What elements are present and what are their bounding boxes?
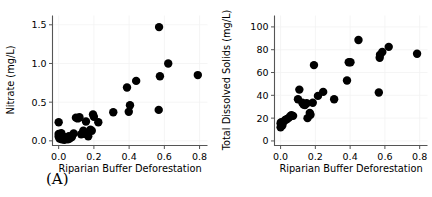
ytick-label: 100	[250, 21, 268, 32]
data-point	[385, 43, 393, 51]
data-point	[123, 83, 131, 91]
ytick-label: 1.5	[31, 19, 46, 30]
data-point	[155, 106, 163, 114]
xtick-label: 0.6	[157, 151, 172, 162]
figure-two-panel-scatter: 0.00.20.40.60.80.00.51.01.5 Riparian Buf…	[0, 0, 432, 197]
ytick-label: 60	[256, 67, 268, 78]
data-point	[375, 88, 383, 96]
ytick-label: 0.0	[31, 135, 46, 146]
xtick-label: 0.2	[86, 151, 101, 162]
panel-b-ticks	[271, 27, 420, 149]
ytick-label: 80	[256, 44, 268, 55]
panel-b-ticklabels: 0.00.20.40.60.8020406080100	[250, 21, 427, 161]
panel-a-plot: 0.00.20.40.60.80.00.51.01.5 Riparian Buf…	[0, 0, 216, 197]
panel-b-data-points	[276, 36, 421, 132]
data-point	[413, 50, 421, 58]
data-point	[156, 72, 164, 80]
panel-a-data-points	[54, 23, 202, 144]
panel-b-plot: 0.00.20.40.60.8020406080100 Riparian Buf…	[216, 0, 432, 197]
data-point	[306, 111, 314, 119]
data-point	[346, 58, 354, 66]
xtick-label: 0.0	[273, 151, 288, 162]
data-point	[310, 61, 318, 69]
xtick-label: 0.4	[343, 151, 358, 162]
data-point	[88, 127, 96, 135]
xtick-label: 0.8	[192, 151, 207, 162]
panel-b-yaxis-label: Total Dissolved Solids (mg/L)	[221, 10, 232, 152]
xtick-label: 0.6	[377, 151, 392, 162]
panel-a-grid	[53, 16, 208, 146]
data-point	[343, 76, 351, 84]
xtick-label: 0.8	[412, 151, 427, 162]
data-point	[164, 59, 172, 67]
panel-a-xaxis-label: Riparian Buffer Deforestation	[58, 163, 201, 174]
data-point	[69, 129, 77, 137]
xtick-label: 0.2	[308, 151, 323, 162]
data-point	[194, 71, 202, 79]
data-point	[155, 23, 163, 31]
ytick-label: 0.5	[31, 97, 46, 108]
ytick-label: 20	[256, 113, 268, 124]
data-point	[295, 85, 303, 93]
data-point	[109, 108, 117, 116]
data-point	[309, 99, 317, 107]
panel-a-yaxis-label: Nitrate (mg/L)	[5, 45, 16, 114]
xtick-label: 0.4	[122, 151, 137, 162]
data-point	[126, 101, 134, 109]
panel-b-xaxis-label: Riparian Buffer Deforestation	[279, 163, 422, 174]
xtick-label: 0.0	[51, 151, 66, 162]
panel-a: 0.00.20.40.60.80.00.51.01.5 Riparian Buf…	[0, 0, 216, 197]
ytick-label: 40	[256, 90, 268, 101]
ytick-label: 1.0	[31, 58, 46, 69]
data-point	[94, 118, 102, 126]
panel-a-tag: (A)	[46, 170, 69, 188]
panel-b: 0.00.20.40.60.8020406080100 Riparian Buf…	[216, 0, 432, 197]
data-point	[54, 118, 62, 126]
ytick-label: 0	[262, 135, 268, 146]
data-point	[132, 77, 140, 85]
data-point	[354, 36, 362, 44]
data-point	[319, 88, 327, 96]
data-point	[289, 112, 297, 120]
data-point	[330, 95, 338, 103]
panel-a-spines	[53, 16, 208, 146]
data-point	[82, 117, 90, 125]
